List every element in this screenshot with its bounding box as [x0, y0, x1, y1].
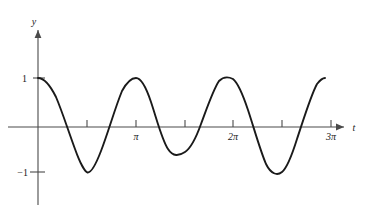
x-tick-label-three-pi: 3π — [325, 131, 337, 142]
x-tick-label-two-pi: 2π — [228, 131, 239, 142]
x-axis-arrow-icon — [336, 124, 344, 131]
plot-canvas: y t 1 −1 π 2π 3π — [0, 0, 375, 217]
function-graph-figure: y t 1 −1 π 2π 3π — [0, 0, 375, 217]
y-axis-arrow-icon — [35, 30, 42, 38]
x-axis-group — [8, 124, 344, 131]
x-axis-label: t — [353, 122, 356, 133]
y-tick-label-minus-one: −1 — [17, 167, 28, 178]
x-tick-marks — [87, 120, 331, 127]
x-tick-label-pi: π — [133, 131, 139, 142]
y-axis-label: y — [31, 16, 37, 27]
y-tick-label-one: 1 — [22, 73, 27, 84]
y-axis-group — [35, 30, 42, 205]
